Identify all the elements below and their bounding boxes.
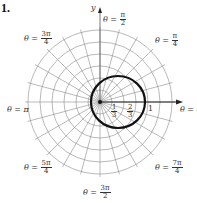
label-theta-pi-over-2: θ = π2 [103,12,126,27]
label-theta-7pi-over-4: θ = 7π4 [155,160,183,175]
radial-label-two-thirds: 23 [127,104,133,119]
label-theta-0: θ = 0 [180,106,197,114]
pole [98,100,102,104]
radial-label-one-third: 13 [111,104,117,119]
y-axis-label: y [91,4,96,12]
problem-number: 1. [1,1,10,16]
label-theta-pi: θ = π [7,106,29,114]
label-theta-pi-over-4: θ = π4 [155,33,178,48]
label-theta-5pi-over-4: θ = 5π4 [24,160,52,175]
radial-label-one: 1 [148,105,153,113]
label-theta-3pi-over-2: θ = 3π2 [83,185,111,200]
label-theta-3pi-over-4: θ = 3π4 [24,31,52,46]
